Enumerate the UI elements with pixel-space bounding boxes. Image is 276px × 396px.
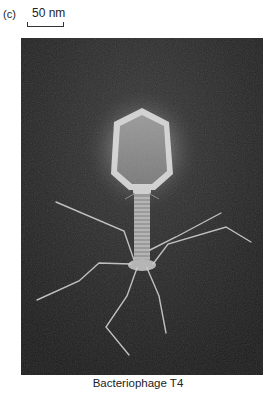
capsid-texture xyxy=(117,115,167,184)
scale-bar xyxy=(27,22,64,27)
phage-illustration xyxy=(21,38,263,375)
panel-label: (c) xyxy=(3,8,16,20)
baseplate xyxy=(128,259,156,271)
scale-bar-label: 50 nm xyxy=(32,6,65,20)
collar xyxy=(133,188,151,194)
figure-caption: Bacteriophage T4 xyxy=(0,377,276,389)
micrograph-image xyxy=(21,38,263,375)
